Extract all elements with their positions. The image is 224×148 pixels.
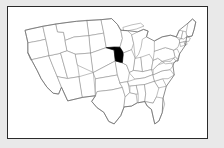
state-alabama[interactable] [137,85,146,103]
map-figure-canvas: Iowa United States map with Iowa highlig… [0,0,224,148]
state-texas[interactable] [92,87,126,123]
us-states-map[interactable] [8,7,207,138]
state-north-dakota[interactable] [87,20,104,36]
states-layer [25,19,195,124]
map-panel: Iowa United States map with Iowa highlig… [7,6,208,139]
